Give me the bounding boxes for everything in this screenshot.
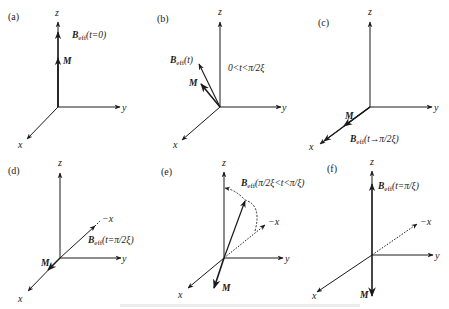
neg-x-axis (372, 224, 417, 255)
panel-f: (f) z y x −x Beff(t=π/ξ) M (311, 156, 440, 301)
panel-label: (e) (161, 166, 172, 178)
y-axis-label: y (434, 250, 440, 261)
b-eff-label: Beff(π/2ξ<t<π/ξ) (240, 178, 304, 190)
magnetization-label: M (359, 290, 369, 300)
x-axis (182, 107, 220, 140)
magnetization-label: M (344, 111, 354, 121)
x-axis-label: x (308, 141, 314, 152)
panel-label: (b) (157, 13, 169, 25)
magnetization-label: M (188, 78, 198, 88)
y-axis-label: y (284, 253, 290, 264)
z-axis-label: z (221, 157, 226, 168)
magnetization-label: M (221, 283, 231, 293)
x-axis-label: x (177, 289, 183, 300)
x-axis-label: x (172, 139, 178, 150)
z-axis-label: z (369, 156, 374, 167)
x-axis-label: x (17, 293, 23, 304)
z-axis-label: z (367, 6, 372, 17)
x-axis (317, 255, 372, 292)
b-eff-label: Beff(t=0) (71, 30, 106, 42)
b-eff-label: Beff(t=π/ξ) (377, 181, 419, 193)
y-axis-label: y (281, 102, 287, 113)
panel-c: (c) z y x M Beff(t→π/2ξ) (308, 6, 439, 152)
magnetization-label: M (40, 258, 50, 268)
b-eff-label: Beff(t=π/2ξ) (87, 235, 134, 247)
panel-d: (d) z y x −x Beff(t=π/2ξ) M (8, 157, 134, 304)
x-axis-label: x (17, 139, 23, 150)
b-eff-label: Beff(t) (169, 55, 193, 67)
panel-e: (e) z y x −x Beff(π/2ξ<t<π/ξ) M (161, 157, 304, 300)
time-condition: 0<t<π/2ξ (228, 63, 265, 74)
magnetization-vector (48, 258, 60, 270)
x-axis (27, 107, 58, 139)
b-eff-vector (224, 201, 245, 258)
panel-a: (a) z y x Beff(t=0) M (8, 7, 127, 150)
neg-x-axis (95, 221, 100, 226)
panel-label: (d) (8, 165, 20, 177)
z-axis-label: z (57, 157, 62, 168)
figure-canvas: (a) z y x Beff(t=0) M (b) z y x Beff(t) … (0, 0, 449, 309)
x-axis-label: x (311, 290, 317, 301)
neg-x-axis-label: −x (102, 213, 114, 224)
neg-x-axis-label: −x (268, 216, 280, 227)
rotation-arc (225, 188, 257, 231)
z-axis-label: z (54, 7, 59, 18)
faded-caption (120, 304, 360, 307)
neg-x-axis-label: −x (420, 216, 432, 227)
y-axis-label: y (121, 102, 127, 113)
panel-label: (a) (8, 11, 19, 23)
panel-label: (c) (318, 17, 329, 29)
b-eff-label: Beff(t→π/2ξ) (349, 134, 399, 146)
y-axis-label: y (433, 102, 439, 113)
z-axis-label: z (217, 6, 222, 17)
panel-label: (f) (327, 163, 337, 175)
panel-b: (b) z y x Beff(t) M 0<t<π/2ξ (157, 6, 287, 150)
y-axis-label: y (121, 253, 127, 264)
magnetization-label: M (62, 56, 72, 66)
